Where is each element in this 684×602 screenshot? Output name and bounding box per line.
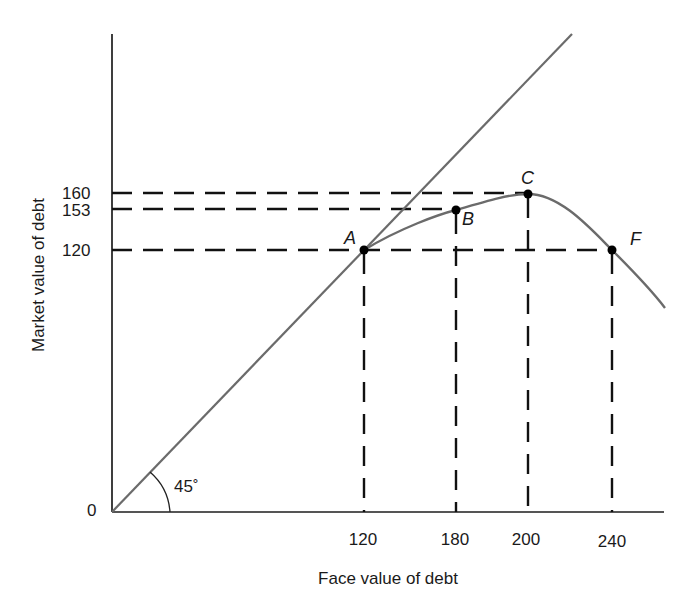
x-tick-240: 240 — [598, 532, 626, 551]
forty-five-degree-line — [112, 34, 572, 512]
data-points — [360, 190, 617, 255]
angle-label: 45˚ — [174, 477, 199, 496]
x-tick-120: 120 — [349, 530, 377, 549]
point-label-c: C — [521, 168, 535, 188]
point-label-a: A — [343, 228, 356, 248]
y-tick-120: 120 — [62, 241, 90, 260]
point-label-f: F — [630, 229, 642, 249]
x-tick-180: 180 — [441, 530, 469, 549]
guide-lines — [112, 193, 612, 512]
debt-laffer-chart: A B C F 160 153 120 0 120 180 200 240 45… — [0, 0, 684, 602]
x-tick-200: 200 — [512, 530, 540, 549]
angle-arc — [150, 472, 170, 512]
origin-label: 0 — [87, 501, 96, 520]
y-tick-153: 153 — [62, 201, 90, 220]
point-label-b: B — [462, 209, 474, 229]
y-axis-title: Market value of debt — [29, 198, 48, 352]
x-axis-title: Face value of debt — [318, 569, 458, 588]
